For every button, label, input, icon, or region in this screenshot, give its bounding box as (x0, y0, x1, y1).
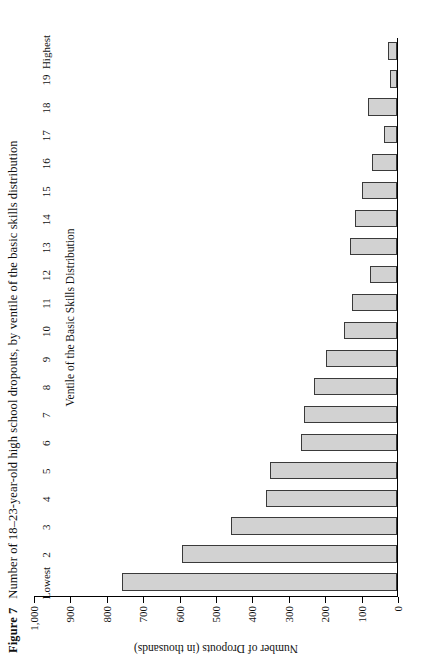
x-tick-label-4: 4 (40, 496, 52, 502)
x-tick-label-8: 8 (40, 385, 52, 391)
bar-series (34, 38, 397, 596)
figure-title: Figure 7Number of 18–23-year-old high sc… (6, 140, 21, 653)
x-tick-label-11: 11 (40, 298, 52, 309)
y-tick-label: 100 (356, 606, 368, 623)
y-tick-label: 600 (174, 606, 186, 623)
y-tick-mark (362, 597, 363, 603)
y-tick-mark (70, 597, 71, 603)
bar-13 (350, 238, 397, 255)
bar-12 (370, 266, 397, 283)
y-tick-mark (34, 597, 35, 603)
bar-4 (266, 490, 397, 507)
figure-page: Figure 7Number of 18–23-year-old high sc… (0, 0, 445, 661)
x-tick-label-10: 10 (40, 326, 52, 337)
x-tick-label-3: 3 (40, 524, 52, 530)
bar-3 (231, 517, 397, 534)
x-tick-label-13: 13 (40, 242, 52, 253)
y-tick-label: 400 (246, 606, 258, 623)
y-tick-label: 700 (137, 606, 149, 623)
figure-caption: Number of 18–23-year-old high school dro… (6, 140, 20, 598)
figure-number: Figure 7 (6, 608, 20, 653)
bar-5 (270, 462, 397, 479)
y-tick-label: 500 (210, 606, 222, 623)
x-tick-label-17: 17 (40, 130, 52, 141)
bar-lowest (122, 573, 397, 590)
bar-18 (368, 98, 397, 115)
y-tick-label: 0 (392, 606, 404, 612)
y-tick-mark (143, 597, 144, 603)
bar-11 (352, 294, 398, 311)
x-tick-label-14: 14 (40, 214, 52, 225)
y-tick-mark (398, 597, 399, 603)
x-tick-label-6: 6 (40, 441, 52, 447)
x-tick-label-16: 16 (40, 158, 52, 169)
y-tick-mark (107, 597, 108, 603)
bar-6 (301, 434, 397, 451)
bar-8 (314, 378, 397, 395)
category-axis-line (397, 38, 398, 597)
x-axis-title: Ventile of the Basic Skills Distribution (64, 229, 76, 407)
bar-highest (388, 42, 397, 59)
y-tick-label: 200 (319, 606, 331, 623)
y-tick-mark (289, 597, 290, 603)
x-tick-label-5: 5 (40, 468, 52, 474)
x-tick-label-7: 7 (40, 413, 52, 419)
y-tick-label: 1,000 (28, 606, 40, 631)
y-tick-mark (252, 597, 253, 603)
y-tick-label: 300 (283, 606, 295, 623)
bar-17 (384, 126, 397, 143)
y-axis-title: Number of Dropouts (in thousands) (134, 643, 298, 655)
y-tick-mark (325, 597, 326, 603)
y-tick-label: 800 (101, 606, 113, 623)
plot-area: Number of Dropouts (in thousands) 010020… (34, 38, 398, 597)
y-tick-mark (216, 597, 217, 603)
bar-10 (344, 322, 397, 339)
y-tick-mark (180, 597, 181, 603)
rotated-figure-canvas: Figure 7Number of 18–23-year-old high sc… (0, 0, 445, 661)
bar-14 (355, 210, 397, 227)
bar-16 (372, 154, 397, 171)
x-tick-label-lowest: Lowest (40, 567, 52, 599)
bar-15 (362, 182, 397, 199)
x-tick-label-9: 9 (40, 357, 52, 363)
bar-7 (304, 406, 397, 423)
bar-2 (182, 545, 397, 562)
x-tick-label-12: 12 (40, 270, 52, 281)
x-tick-label-19: 19 (40, 74, 52, 85)
x-tick-label-15: 15 (40, 186, 52, 197)
bar-19 (390, 70, 397, 87)
x-tick-label-18: 18 (40, 102, 52, 113)
bar-9 (326, 350, 397, 367)
y-tick-label: 900 (64, 606, 76, 623)
x-tick-label-highest: Highest (40, 35, 52, 69)
x-tick-label-2: 2 (40, 552, 52, 558)
